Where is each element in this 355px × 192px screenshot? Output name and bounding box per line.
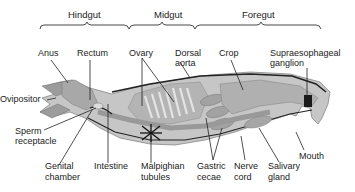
- label-ovipositor: Ovipositor: [0, 94, 41, 104]
- midgut-brace: [129, 22, 195, 29]
- section-label-foregut: Foregut: [242, 9, 275, 20]
- label-nerve-cord-line2: cord: [234, 172, 252, 182]
- label-malpighian-tubules-line2: tubules: [141, 172, 171, 182]
- insect-anatomy-diagram: Hindgut Midgut Foregut: [0, 0, 355, 192]
- label-ovary: Ovary: [129, 48, 154, 58]
- label-supraesophageal-line2: ganglion: [270, 58, 304, 68]
- label-sperm-receptacle-line2: receptacle: [15, 136, 57, 146]
- section-label-hindgut: Hindgut: [68, 9, 101, 20]
- section-label-midgut: Midgut: [154, 9, 183, 20]
- label-anus: Anus: [38, 48, 59, 58]
- label-gastric-cecae-line1: Gastric: [197, 161, 226, 171]
- label-supraesophageal-line1: Supraesophageal: [270, 48, 341, 58]
- label-genital-chamber-line2: chamber: [45, 172, 80, 182]
- label-intestine: Intestine: [94, 161, 128, 171]
- label-dorsal-aorta-line2: aorta: [175, 58, 196, 68]
- insect-body: [40, 72, 330, 145]
- label-salivary-gland-line2: gland: [268, 172, 290, 182]
- label-nerve-cord-line1: Nerve: [234, 161, 258, 171]
- label-gastric-cecae-line2: cecae: [197, 172, 221, 182]
- label-salivary-gland-line1: Salivary: [268, 161, 301, 171]
- hindgut-brace: [40, 22, 129, 29]
- label-malpighian-tubules-line1: Malpighian: [141, 161, 185, 171]
- label-genital-chamber-line1: Genital: [45, 161, 74, 171]
- label-sperm-receptacle-line1: Sperm: [15, 126, 42, 136]
- foregut-brace: [195, 22, 321, 29]
- label-dorsal-aorta-line1: Dorsal: [175, 48, 201, 58]
- label-crop: Crop: [219, 48, 239, 58]
- label-rectum: Rectum: [77, 48, 108, 58]
- label-mouth: Mouth: [299, 151, 324, 161]
